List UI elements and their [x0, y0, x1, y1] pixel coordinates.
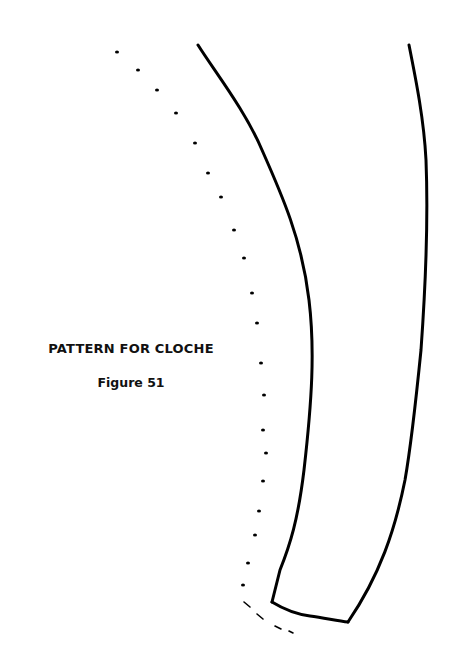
seam-dot: [259, 361, 263, 364]
seam-dot: [155, 88, 159, 91]
seam-dot: [261, 428, 265, 431]
seam-dash: [275, 626, 281, 629]
seam-dot: [261, 479, 265, 482]
seam-dash: [289, 631, 293, 633]
seam-dash: [257, 614, 263, 619]
seam-dot: [257, 509, 261, 512]
cloche-pattern-drawing: [0, 0, 452, 652]
seam-dot: [246, 561, 250, 564]
seam-dot: [264, 451, 268, 454]
seam-dot: [193, 141, 197, 144]
seam-dot: [250, 291, 254, 294]
seam-dot: [242, 256, 246, 259]
seam-dot: [219, 195, 223, 198]
seam-dot: [115, 50, 119, 53]
figure-label: Figure 51: [36, 375, 226, 390]
seam-dot: [255, 321, 259, 324]
seam-dot: [206, 171, 210, 174]
pattern-left-outline: [198, 45, 312, 602]
seam-dot: [253, 533, 257, 536]
seam-dot: [262, 393, 266, 396]
seam-dot: [241, 583, 245, 586]
seam-dash: [244, 602, 250, 607]
seam-dot: [174, 111, 178, 114]
pattern-bottom-edge: [272, 602, 348, 622]
pattern-title: PATTERN FOR CLOCHE: [36, 341, 226, 356]
pattern-right-outline: [348, 45, 427, 622]
seam-dot: [136, 68, 140, 71]
seam-dot: [232, 228, 236, 231]
